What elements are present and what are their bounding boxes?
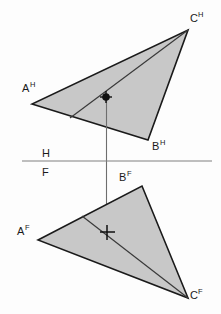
vertex-superscript-a-top: H [30,80,35,89]
vertex-label-c-front: C [190,289,198,301]
vertex-superscript-a-front: F [25,223,30,232]
vertex-label-b-top: B [152,140,159,152]
vertex-superscript-b-top: H [160,138,165,147]
fold-line-label-h: H [42,147,50,159]
point-marker-dot [102,93,110,101]
vertex-superscript-c-top: H [198,10,203,19]
vertex-superscript-b-front: F [127,169,132,178]
vertex-label-c-top: C [190,12,198,24]
diagram-canvas: A H B H C H H F A F B F C F [0,0,221,314]
vertex-label-a-top: A [22,82,30,94]
vertex-label-b-front: B [119,171,126,183]
fold-line-label-f: F [42,166,49,178]
vertex-label-a-front: A [17,225,25,237]
vertex-superscript-c-front: F [198,287,203,296]
descriptive-geometry-diagram: A H B H C H H F A F B F C F [0,0,221,314]
